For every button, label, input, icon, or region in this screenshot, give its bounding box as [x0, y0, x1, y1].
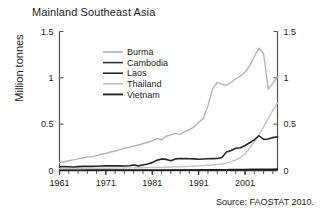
- y-tick-label-right: 1.5: [284, 27, 297, 37]
- legend-label-laos: Laos: [127, 68, 147, 78]
- legend-label-vietnam: Vietnam: [127, 90, 160, 100]
- legend-label-burma: Burma: [127, 47, 154, 57]
- legend-label-cambodia: Cambodia: [127, 58, 168, 68]
- y-tick-label-right: 1: [284, 73, 289, 83]
- plot-area: 000.50.5111.51.519611971198119912001Burm…: [0, 0, 322, 213]
- y-tick-label-left: 1: [48, 73, 53, 83]
- x-tick-label: 1991: [189, 178, 209, 188]
- chart-figure: Mainland Southeast Asia Million tonnes S…: [0, 0, 322, 213]
- y-tick-label-left: 1.5: [41, 27, 54, 37]
- x-tick-label: 1971: [96, 178, 116, 188]
- x-tick-label: 1961: [49, 178, 69, 188]
- series-line-laos: [60, 170, 278, 171]
- legend-label-thailand: Thailand: [127, 79, 162, 89]
- x-tick-label: 2001: [235, 178, 255, 188]
- y-tick-label-left: 0: [48, 166, 53, 176]
- y-tick-label-right: 0.5: [284, 119, 297, 129]
- y-tick-label-right: 0: [284, 166, 289, 176]
- y-tick-label-left: 0.5: [41, 119, 54, 129]
- series-line-vietnam: [60, 136, 278, 167]
- x-tick-label: 1981: [142, 178, 162, 188]
